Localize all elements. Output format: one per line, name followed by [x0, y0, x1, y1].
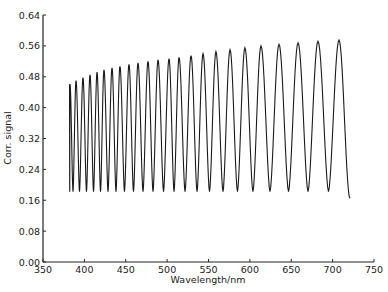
x-tick-label: 650: [282, 264, 300, 275]
signal-line: [69, 40, 350, 198]
y-ticks: 0.000.080.160.240.320.400.480.560.64: [19, 10, 46, 268]
y-tick-label: 0.00: [19, 257, 40, 268]
y-tick-label: 0.08: [19, 226, 40, 237]
y-axis-label: Corr. signal: [2, 111, 13, 164]
x-tick-label: 450: [117, 264, 135, 275]
y-tick-label: 0.40: [19, 102, 40, 113]
x-tick-label: 700: [324, 264, 342, 275]
y-tick-label: 0.48: [19, 71, 40, 82]
x-tick-label: 400: [75, 264, 93, 275]
y-tick-label: 0.32: [19, 133, 40, 144]
x-tick-label: 750: [365, 264, 383, 275]
chart: 350400450500550600650700750 0.000.080.16…: [0, 0, 388, 292]
y-tick-label: 0.16: [19, 195, 40, 206]
x-axis-label: Wavelength/nm: [171, 274, 246, 285]
y-tick-label: 0.56: [19, 40, 40, 51]
y-tick-label: 0.24: [19, 164, 40, 175]
y-tick-label: 0.64: [19, 10, 40, 21]
